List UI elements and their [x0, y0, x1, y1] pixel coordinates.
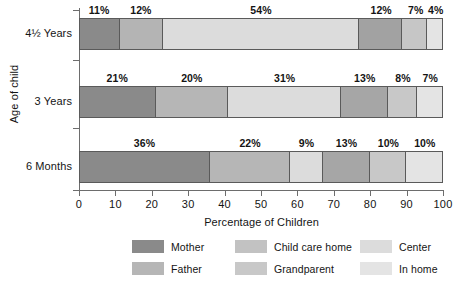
y-axis-tick-label: 6 Months [0, 160, 72, 172]
x-axis-tick [188, 190, 189, 196]
x-axis-tick-label: 60 [282, 198, 312, 210]
bar-value-label: 12% [121, 4, 161, 16]
bar-value-label: 54% [241, 4, 281, 16]
bar-segment[interactable] [228, 87, 340, 117]
legend-swatch [132, 240, 164, 253]
bar-segment[interactable] [359, 19, 402, 49]
legend-item[interactable]: Grandparent [235, 262, 334, 275]
legend-item[interactable]: Center [360, 240, 431, 253]
bar-segment[interactable] [323, 152, 370, 182]
x-axis-tick [443, 190, 444, 196]
y-axis-tick [73, 60, 79, 61]
y-axis-tick-label: 4½ Years [0, 27, 72, 39]
x-axis-tick-label: 70 [319, 198, 349, 210]
legend-item[interactable]: In home [360, 262, 438, 275]
legend-swatch [132, 262, 164, 275]
x-axis-tick [297, 190, 298, 196]
legend-swatch [360, 262, 392, 275]
x-axis-tick [152, 190, 153, 196]
bar-value-label: 36% [125, 137, 165, 149]
legend-item[interactable]: Father [132, 262, 202, 275]
bar-value-label: 21% [97, 72, 137, 84]
x-axis-tick-label: 40 [210, 198, 240, 210]
bar-value-label: 31% [265, 72, 305, 84]
bar-segment[interactable] [427, 19, 441, 49]
bar-segment[interactable] [80, 87, 156, 117]
legend-swatch [360, 240, 392, 253]
x-axis-tick-label: 100 [428, 198, 458, 210]
bar-value-label: 4% [416, 4, 456, 16]
bar-track [79, 151, 443, 183]
bar-segment[interactable] [120, 19, 163, 49]
bar-segment[interactable] [417, 87, 442, 117]
x-axis-tick [261, 190, 262, 196]
bar-segment[interactable] [80, 152, 210, 182]
y-axis-tick [73, 128, 79, 129]
legend-item[interactable]: Child care home [235, 240, 352, 253]
legend-label: In home [399, 263, 438, 275]
y-axis-tick-label: 3 Years [0, 95, 72, 107]
legend-label: Center [399, 241, 431, 253]
bar-segment[interactable] [388, 87, 417, 117]
x-axis-title: Percentage of Children [79, 216, 444, 228]
bar-segment[interactable] [156, 87, 228, 117]
legend: MotherFatherChild care homeGrandparentCe… [132, 240, 452, 286]
bar-value-label: 20% [172, 72, 212, 84]
bar-segment[interactable] [290, 152, 323, 182]
x-axis-tick-label: 80 [355, 198, 385, 210]
legend-label: Child care home [274, 241, 352, 253]
x-axis-tick [370, 190, 371, 196]
x-axis-tick-label: 30 [173, 198, 203, 210]
legend-label: Grandparent [274, 263, 334, 275]
legend-item[interactable]: Mother [132, 240, 204, 253]
bar-segment[interactable] [370, 152, 406, 182]
bar-track [79, 18, 443, 50]
bar-value-label: 13% [345, 72, 385, 84]
bar-value-label: 13% [327, 137, 367, 149]
x-axis-tick [407, 190, 408, 196]
bar-segment[interactable] [210, 152, 290, 182]
x-axis-tick-label: 90 [392, 198, 422, 210]
x-axis-tick [225, 190, 226, 196]
bar-segment[interactable] [80, 19, 120, 49]
stacked-bar-chart: Age of child 4½ Years11%12%54%12%7%4%3 Y… [0, 0, 464, 298]
bar-value-label: 11% [79, 4, 119, 16]
x-axis-tick [334, 190, 335, 196]
bar-segment[interactable] [406, 152, 442, 182]
legend-swatch [235, 262, 267, 275]
bar-segment[interactable] [341, 87, 388, 117]
bar-value-label: 22% [230, 137, 270, 149]
legend-label: Father [171, 263, 202, 275]
bar-value-label: 10% [405, 137, 445, 149]
bar-value-label: 7% [410, 72, 450, 84]
bar-segment[interactable] [402, 19, 427, 49]
bar-value-label: 9% [287, 137, 327, 149]
x-axis-tick-label: 20 [137, 198, 167, 210]
legend-label: Mother [171, 241, 204, 253]
x-axis-tick-label: 0 [64, 198, 94, 210]
x-axis-tick [115, 190, 116, 196]
bar-value-label: 10% [368, 137, 408, 149]
x-axis-tick-label: 50 [246, 198, 276, 210]
bar-track [79, 86, 443, 118]
x-axis-tick-label: 10 [100, 198, 130, 210]
bar-segment[interactable] [163, 19, 358, 49]
y-axis-title: Age of child [8, 34, 20, 154]
legend-swatch [235, 240, 267, 253]
x-axis-tick [79, 190, 80, 196]
